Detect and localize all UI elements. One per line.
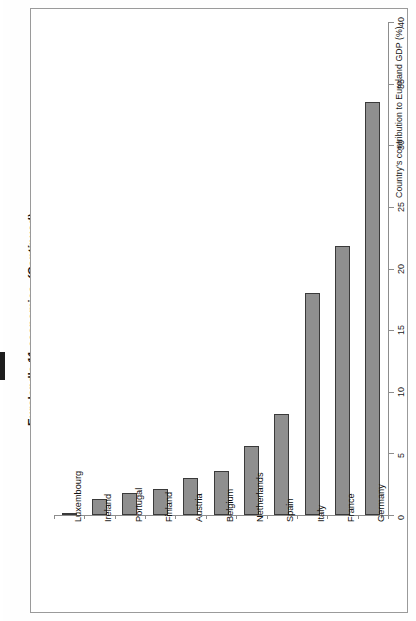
category-label: Italy <box>316 505 326 522</box>
value-axis-tick <box>389 453 394 454</box>
value-axis-tick <box>389 515 394 516</box>
category-label: Ireland <box>103 494 113 522</box>
category-label: Germany <box>376 484 386 522</box>
scanned-page: Euroland's 11 economies. (Continued) 051… <box>0 0 416 621</box>
bar <box>365 102 380 515</box>
scan-artifact-mark <box>0 352 5 380</box>
category-axis-tick <box>297 515 298 519</box>
category-label: Austria <box>194 493 204 522</box>
value-axis-tick <box>389 269 394 270</box>
value-axis-tick-label: 10 <box>396 387 406 397</box>
category-label: Netherlands <box>255 472 265 522</box>
category-axis-tick <box>175 515 176 519</box>
value-axis-tick <box>389 330 394 331</box>
bar-chart: 0510152025303540 LuxembourgIrelandPortug… <box>36 10 402 610</box>
category-label: Finland <box>164 492 174 522</box>
value-axis-tick <box>389 207 394 208</box>
value-axis-tick-label: 25 <box>396 202 406 212</box>
scan-edge <box>0 0 3 621</box>
category-axis-tick <box>206 515 207 519</box>
category-axis-tick <box>267 515 268 519</box>
value-axis-tick <box>389 22 394 23</box>
category-axis-tick <box>236 515 237 519</box>
category-label: Luxembourg <box>73 471 83 522</box>
category-label: Portugal <box>134 488 144 522</box>
value-axis-title: Country's contribution to Euroland GDP (… <box>394 26 404 198</box>
category-axis-tick <box>84 515 85 519</box>
category-label: France <box>346 493 356 522</box>
category-axis-tick <box>327 515 328 519</box>
value-axis-tick-label: 5 <box>396 453 406 458</box>
category-label: Belgium <box>225 489 235 522</box>
value-axis-tick-label: 15 <box>396 325 406 335</box>
category-axis-tick <box>388 515 389 519</box>
category-axis-tick <box>358 515 359 519</box>
category-axis-tick <box>145 515 146 519</box>
value-axis-tick-label: 20 <box>396 263 406 273</box>
bar <box>335 246 350 515</box>
category-label: Spain <box>285 499 295 523</box>
value-axis-tick <box>389 392 394 393</box>
value-axis-tick-label: 0 <box>396 515 406 520</box>
category-axis-tick <box>54 515 55 519</box>
category-axis-tick <box>115 515 116 519</box>
bar <box>305 293 320 515</box>
